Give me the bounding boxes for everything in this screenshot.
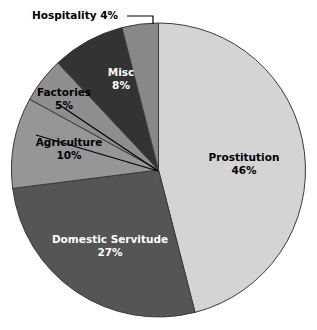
- pie-label-domestic-servitude-name: Domestic Servitude: [52, 233, 168, 245]
- pie-label-misc-value: 8%: [112, 79, 130, 91]
- pie-label-misc-name: Misc: [108, 66, 135, 78]
- pie-callout-hospitality: Hospitality 4%: [32, 9, 118, 21]
- pie-label-domestic-servitude-value: 27%: [97, 246, 123, 258]
- pie-label-factories-name: Factories: [37, 86, 91, 98]
- pie-label-prostitution-value: 46%: [231, 164, 257, 176]
- pie-label-prostitution-name: Prostitution: [209, 151, 280, 163]
- pie-slices: [12, 23, 306, 317]
- pie-label-agriculture-value: 10%: [56, 149, 82, 161]
- pie-chart-svg: Prostitution 46% Domestic Servitude 27% …: [0, 0, 317, 330]
- pie-chart: Prostitution 46% Domestic Servitude 27% …: [0, 0, 317, 330]
- pie-label-agriculture-name: Agriculture: [36, 136, 103, 148]
- callout-labels: Hospitality 4%: [32, 9, 118, 21]
- pie-label-factories-value: 5%: [55, 99, 73, 111]
